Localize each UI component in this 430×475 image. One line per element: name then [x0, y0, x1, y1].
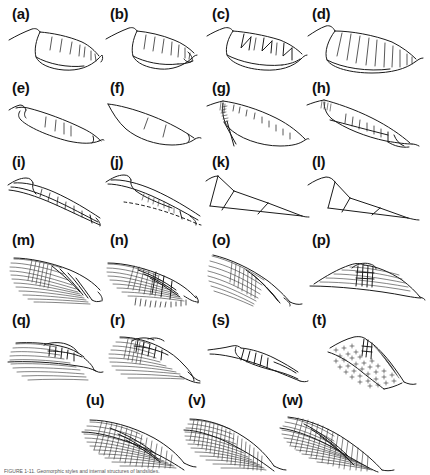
panel-h: (h) [306, 78, 426, 152]
panel-n: (n) [104, 230, 204, 310]
panel-label-e: (e) [12, 80, 29, 95]
panel-i: (i) [6, 152, 106, 230]
panel-j-sketch [104, 170, 204, 228]
panel-i-sketch [6, 172, 106, 228]
panel-label-g: (g) [212, 80, 230, 95]
panel-q-sketch [6, 332, 106, 388]
panel-label-r: (r) [110, 312, 125, 327]
panel-label-w: (w) [282, 392, 303, 407]
panel-w: (w) [276, 390, 422, 474]
panel-a-sketch [6, 24, 106, 78]
panel-m-sketch [6, 250, 106, 308]
panel-g: (g) [206, 78, 310, 152]
panel-label-v: (v) [188, 392, 205, 407]
panel-k: (k) [206, 152, 310, 230]
panel-label-t: (t) [312, 312, 326, 327]
panel-p: (p) [306, 230, 426, 310]
panel-l-sketch [306, 172, 426, 228]
panel-label-a: (a) [12, 6, 29, 21]
panel-label-k: (k) [212, 154, 229, 169]
panel-label-p: (p) [312, 232, 330, 247]
panel-c: (c) [206, 4, 310, 78]
panel-q: (q) [6, 310, 106, 390]
panel-w-sketch [276, 410, 422, 472]
panel-b: (b) [104, 4, 204, 78]
panel-t-sketch [324, 330, 424, 390]
panel-u-sketch [80, 410, 198, 472]
panel-k-sketch [206, 172, 310, 228]
panel-e: (e) [6, 78, 106, 152]
panel-label-d: (d) [312, 6, 330, 21]
panel-o: (o) [206, 230, 310, 310]
panel-label-b: (b) [110, 6, 128, 21]
panel-label-h: (h) [312, 80, 330, 95]
panel-f-sketch [104, 96, 204, 150]
panel-label-i: (i) [12, 154, 25, 169]
panel-f: (f) [104, 78, 204, 152]
panel-s-sketch [206, 334, 310, 386]
panel-h-sketch [306, 94, 426, 152]
panel-s: (s) [206, 310, 310, 390]
panel-p-sketch [306, 254, 426, 308]
panel-label-q: (q) [12, 312, 30, 327]
figure-caption: FIGURE 1-11. Geomorphic styles and inter… [4, 468, 424, 475]
panel-d-sketch [306, 22, 426, 78]
panel-j: (j) [104, 152, 204, 230]
panel-label-u: (u) [86, 392, 104, 407]
panel-label-c: (c) [212, 6, 229, 21]
panel-n-sketch [104, 250, 204, 308]
panel-e-sketch [6, 98, 106, 150]
panel-c-sketch [206, 24, 310, 78]
panel-a: (a) [6, 4, 106, 78]
panel-o-sketch [206, 248, 310, 308]
panel-label-f: (f) [110, 80, 124, 95]
panel-label-n: (n) [110, 232, 128, 247]
figure-canvas: (a) (b) [0, 0, 430, 475]
panel-r: (r) [104, 310, 204, 390]
panel-d: (d) [306, 4, 426, 78]
panel-t: (t) [306, 310, 426, 390]
panel-label-j: (j) [110, 154, 123, 169]
panel-label-o: (o) [212, 232, 230, 247]
panel-label-l: (l) [312, 154, 325, 169]
panel-m: (m) [6, 230, 106, 310]
panel-label-m: (m) [12, 232, 34, 247]
panel-r-sketch [104, 328, 204, 388]
panel-label-s: (s) [212, 312, 229, 327]
panel-g-sketch [206, 94, 310, 152]
panel-b-sketch [104, 24, 204, 78]
panel-l: (l) [306, 152, 426, 230]
panel-u: (u) [80, 390, 198, 474]
